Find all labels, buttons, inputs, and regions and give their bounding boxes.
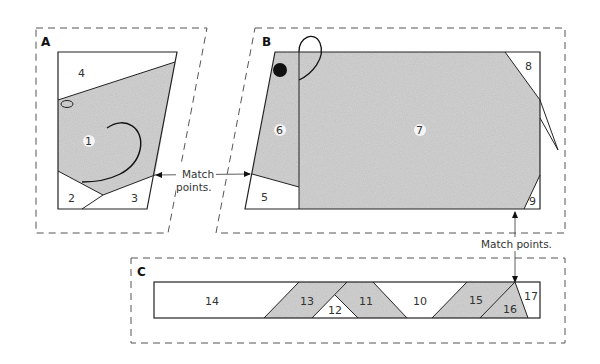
- tail-spike: [540, 100, 558, 150]
- eye-dot-icon: [273, 63, 287, 77]
- piece-13-label: 13: [300, 295, 314, 308]
- section-b-label: B: [262, 35, 271, 49]
- match-points-bc: Match points.: [476, 211, 556, 283]
- piece-8-label: 8: [525, 60, 532, 73]
- piece-16-label: 16: [503, 303, 517, 316]
- piece-3-label: 3: [131, 192, 138, 205]
- piece-12-label: 12: [328, 304, 342, 317]
- section-a: A 4 1 2 3: [36, 28, 207, 233]
- piece-7-label: 7: [416, 124, 423, 137]
- match-label-line1: Match: [182, 168, 214, 180]
- match-label-bc: Match points.: [481, 238, 552, 250]
- match-points-ab: Match points.: [155, 165, 251, 193]
- piece-11-label: 11: [359, 295, 373, 308]
- piece-10-label: 10: [413, 295, 427, 308]
- piece-17-label: 17: [524, 290, 538, 303]
- section-c-label: C: [137, 265, 146, 279]
- piece-15-label: 15: [469, 294, 483, 307]
- section-a-label: A: [41, 35, 51, 49]
- match-label-line2: points.: [176, 181, 212, 193]
- piece-5-label: 5: [261, 191, 268, 204]
- piece-1-label: 1: [85, 135, 92, 148]
- piece-9-label: 9: [529, 195, 536, 208]
- section-c: C 14 13 12 11 10 15 16 17: [131, 258, 565, 343]
- piece-4-label: 4: [78, 67, 85, 80]
- piece-14-label: 14: [205, 295, 219, 308]
- pattern-diagram: A 4 1 2 3 B: [0, 0, 600, 364]
- piece-6-label: 6: [276, 124, 283, 137]
- section-b: B 6 7 5 8 9: [216, 28, 565, 233]
- piece-2-label: 2: [68, 192, 75, 205]
